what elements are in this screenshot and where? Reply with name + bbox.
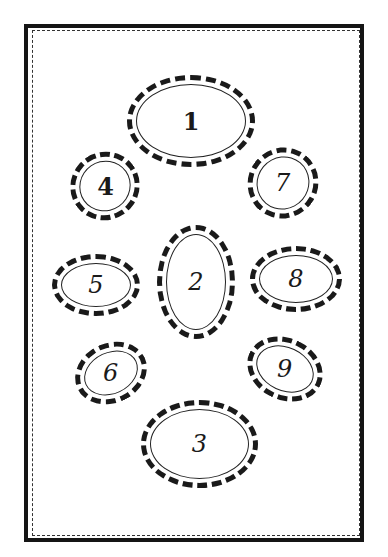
oval-number: 2 bbox=[188, 268, 203, 296]
oval-inner-ring: 8 bbox=[259, 255, 333, 303]
oval-number: 6 bbox=[103, 359, 118, 387]
oval-inner-ring: 2 bbox=[166, 234, 226, 330]
oval-1: 1 bbox=[127, 75, 255, 167]
oval-2: 2 bbox=[157, 225, 235, 339]
oval-number: 7 bbox=[275, 169, 290, 197]
oval-3: 3 bbox=[141, 400, 258, 488]
oval-number: 3 bbox=[192, 430, 207, 458]
oval-number: 9 bbox=[277, 355, 292, 383]
oval-inner-ring: 1 bbox=[136, 84, 246, 158]
oval-inner-ring: 3 bbox=[150, 409, 249, 479]
oval-number: 8 bbox=[288, 265, 303, 293]
oval-number: 1 bbox=[183, 107, 200, 136]
oval-inner-ring: 5 bbox=[61, 263, 131, 307]
oval-8: 8 bbox=[250, 246, 342, 312]
oval-number: 5 bbox=[88, 271, 103, 299]
oval-5: 5 bbox=[52, 254, 140, 316]
oval-number: 4 bbox=[97, 172, 114, 201]
